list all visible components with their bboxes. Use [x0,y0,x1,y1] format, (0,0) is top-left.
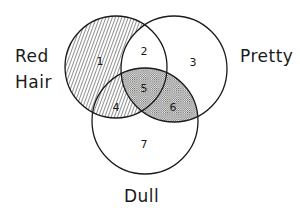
region-number-5: 5 [141,82,148,95]
venn-diagram: 1 2 3 4 5 6 7 Red Hair Pretty Dull [0,0,300,217]
region-number-6: 6 [170,101,177,114]
label-red: Red [15,48,49,65]
label-dull: Dull [124,188,159,205]
label-pretty: Pretty [240,48,293,65]
region-number-7: 7 [141,138,148,151]
region-number-2: 2 [141,45,148,58]
venn-svg: 1 2 3 4 5 6 7 [0,0,300,217]
region-number-3: 3 [190,56,197,69]
region-number-1: 1 [97,55,104,68]
region-number-4: 4 [113,101,120,114]
label-hair: Hair [15,74,52,91]
